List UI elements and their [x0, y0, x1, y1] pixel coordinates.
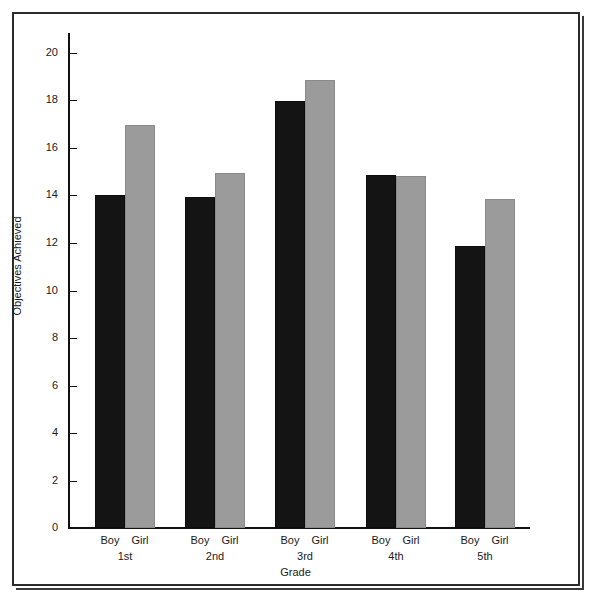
series-label-girl: Girl [300, 534, 340, 546]
series-label-girl: Girl [480, 534, 520, 546]
group-label-4th: 4th [351, 550, 441, 562]
y-tick-mark [70, 481, 77, 482]
y-tick-label: 12 [24, 237, 58, 248]
y-tick-label: 10 [24, 285, 58, 296]
y-tick-label: 4 [24, 427, 58, 438]
y-tick: 20 [0, 53, 80, 54]
y-tick: 0 [0, 528, 80, 529]
y-tick-label: 14 [24, 189, 58, 200]
bar-girl-1st [125, 125, 155, 528]
y-tick: 6 [0, 386, 80, 387]
y-axis-line [68, 33, 70, 529]
y-tick-label: 2 [24, 475, 58, 486]
y-tick-mark [70, 100, 77, 101]
bar-girl-5th [485, 199, 515, 528]
bar-boy-1st [95, 195, 125, 528]
series-label-girl: Girl [210, 534, 250, 546]
x-axis-title: Grade [0, 566, 591, 578]
y-tick-label: 18 [24, 94, 58, 105]
y-tick-label: 0 [24, 522, 58, 533]
bar-girl-3rd [305, 80, 335, 528]
group-label-1st: 1st [80, 550, 170, 562]
y-tick: 4 [0, 433, 80, 434]
y-axis-title: Objectives Achieved [11, 186, 23, 346]
y-tick-label: 6 [24, 380, 58, 391]
bar-boy-3rd [275, 101, 305, 528]
y-tick-label: 20 [24, 47, 58, 58]
y-tick: 16 [0, 148, 80, 149]
y-tick-label: 16 [24, 142, 58, 153]
y-tick-mark [70, 53, 77, 54]
group-label-2nd: 2nd [170, 550, 260, 562]
chart-figure: 02468101214161820 BoyGirl1stBoyGirl2ndBo… [0, 0, 591, 597]
y-tick-mark [70, 338, 77, 339]
group-label-5th: 5th [440, 550, 530, 562]
y-tick-mark [70, 195, 77, 196]
bar-boy-5th [455, 246, 485, 528]
series-label-girl: Girl [120, 534, 160, 546]
y-tick-mark [70, 433, 77, 434]
y-tick-mark [70, 528, 77, 529]
bar-girl-4th [396, 176, 426, 528]
y-tick-mark [70, 291, 77, 292]
y-tick-mark [70, 148, 77, 149]
y-tick: 18 [0, 100, 80, 101]
bar-girl-2nd [215, 173, 245, 529]
group-label-3rd: 3rd [260, 550, 350, 562]
series-label-girl: Girl [391, 534, 431, 546]
bar-boy-4th [366, 175, 396, 528]
y-tick: 2 [0, 481, 80, 482]
y-tick-label: 8 [24, 332, 58, 343]
y-tick-mark [70, 243, 77, 244]
plot-area: 02468101214161820 BoyGirl1stBoyGirl2ndBo… [0, 0, 591, 597]
y-tick-mark [70, 386, 77, 387]
bar-boy-2nd [185, 197, 215, 528]
